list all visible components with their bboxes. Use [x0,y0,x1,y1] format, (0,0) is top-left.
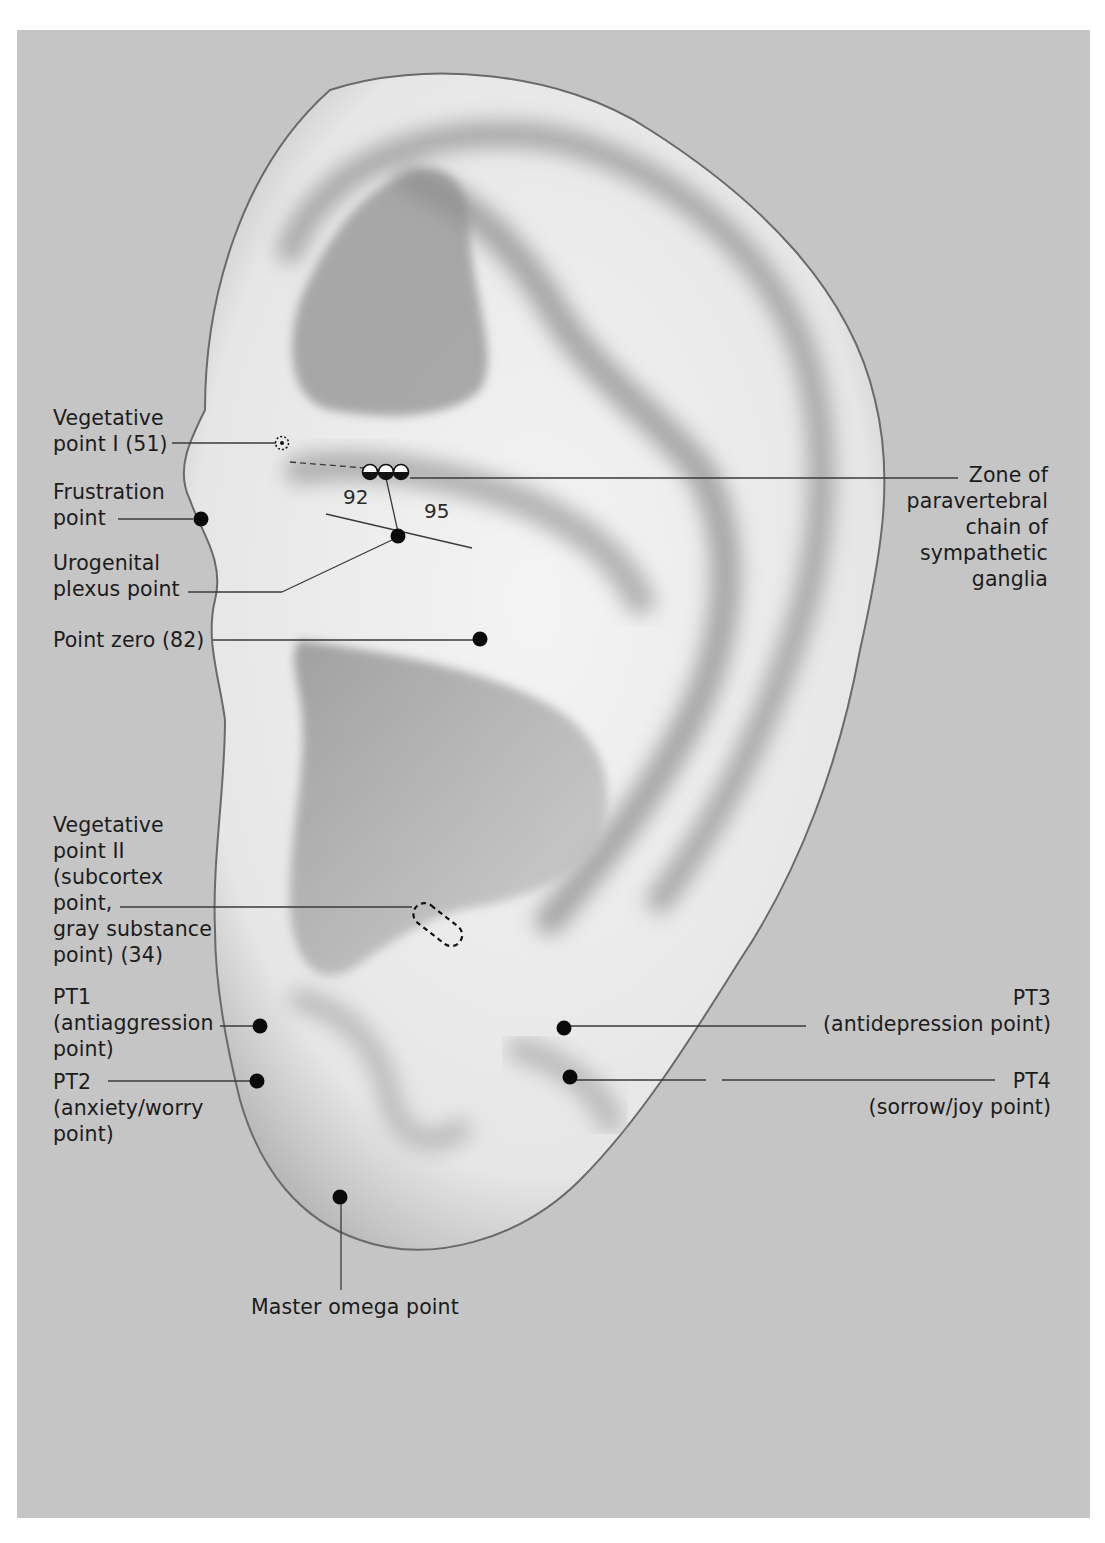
pt4-marker [563,1070,578,1085]
label-master-omega-point: Master omega point [251,1294,459,1320]
label-point-zero: Point zero (82) [53,627,204,653]
label-vegetative-point-1: Vegetative point I (51) [53,405,168,457]
pt2-marker [250,1074,265,1089]
ear-illustration [17,30,1090,1518]
label-pt1: PT1 (antiaggression point) [53,984,214,1062]
pt3-marker [557,1021,572,1036]
label-paravertebral-zone: Zone of paravertebral chain of sympathet… [907,462,1048,592]
label-urogenital-plexus-point: Urogenital plexus point [53,550,180,602]
paravertebral-chain-markers [363,465,409,480]
label-pt3: PT3 (antidepression point) [823,985,1051,1037]
master-omega-point-marker [333,1190,348,1205]
pt1-marker [253,1019,268,1034]
zone-number-92: 92 [343,485,368,509]
label-vegetative-point-2: Vegetative point II (subcortex point, gr… [53,812,212,968]
urogenital-plexus-point-marker [391,529,406,544]
frustration-point-marker [194,512,209,527]
label-frustration-point: Frustration point [53,479,165,531]
point-zero-marker [473,632,488,647]
label-pt4: PT4 (sorrow/joy point) [869,1068,1051,1120]
label-pt2: PT2 (anxiety/worry point) [53,1069,203,1147]
zone-number-95: 95 [424,499,449,523]
illustration-panel: Vegetative point I (51) Frustration poin… [17,30,1090,1518]
